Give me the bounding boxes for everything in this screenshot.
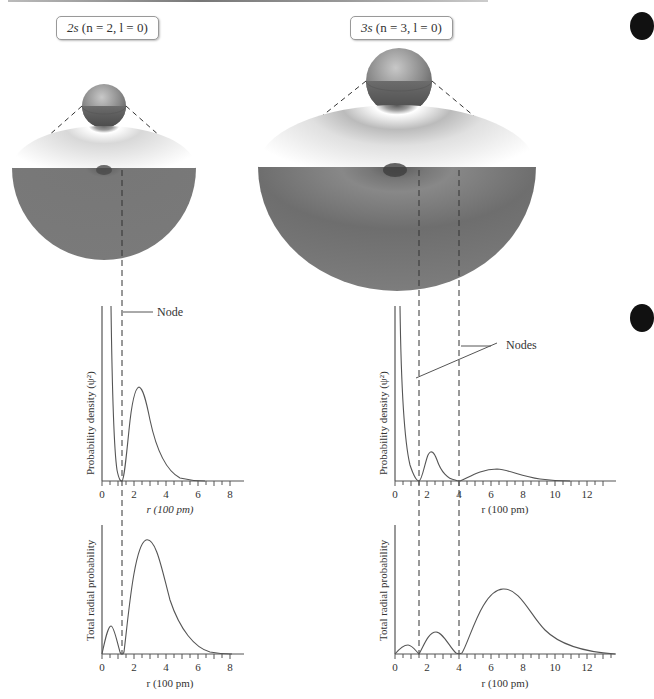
svg-text:6: 6 [195,488,201,500]
svg-text:4: 4 [163,661,169,673]
svg-text:2: 2 [131,661,137,673]
xlabel-2s-prob-density: r (100 pm) [146,503,193,516]
svg-text:4: 4 [456,661,462,673]
sphere-3s [366,48,432,114]
svg-text:12: 12 [582,488,593,500]
sphere-2s [82,84,126,128]
ylabel-3s-prob-density: Probability density (ψ²) [377,371,390,475]
svg-text:6: 6 [488,661,494,673]
orbital-diagram: Node Nodes Probability density (ψ²) Tota… [0,0,654,699]
ylabel-3s-radial: Total radial probability [377,539,389,641]
plot-3s-prob-density [395,306,616,486]
plot-2s-radial [102,525,244,659]
svg-text:6: 6 [488,488,494,500]
xlabel-2s-radial: r (100 pm) [146,677,193,690]
svg-text:0: 0 [99,661,105,673]
svg-text:4: 4 [163,488,169,500]
node-annotation-2s: Node [157,305,183,319]
svg-text:0: 0 [392,661,398,673]
svg-text:8: 8 [227,488,233,500]
ticks-3s-prob-density: 0 2 4 6 8 10 12 [392,488,592,500]
ticks-3s-radial: 0 2 4 6 8 10 12 [392,661,592,673]
svg-text:8: 8 [520,661,526,673]
svg-text:8: 8 [227,661,233,673]
xlabel-3s-radial: r (100 pm) [481,677,528,690]
ylabel-2s-prob-density: Probability density (ψ²) [84,371,97,475]
ticks-2s-radial: 0 2 4 6 8 [99,661,233,673]
cross-section-3s [258,105,536,291]
svg-text:4: 4 [456,488,462,500]
ticks-2s-prob-density: 0 2 4 6 8 [99,488,233,500]
svg-text:12: 12 [582,661,593,673]
svg-text:10: 10 [550,661,562,673]
plot-2s-prob-density [102,306,244,486]
ylabel-2s-radial: Total radial probability [84,539,96,641]
svg-text:2: 2 [424,661,430,673]
svg-text:0: 0 [99,488,105,500]
punch-hole-top [630,12,654,40]
svg-text:0: 0 [392,488,398,500]
svg-text:8: 8 [520,488,526,500]
svg-text:6: 6 [195,661,201,673]
xlabel-3s-prob-density: r (100 pm) [481,503,528,516]
svg-text:2: 2 [131,488,137,500]
nodes-annotation-3s: Nodes [506,338,537,352]
svg-text:10: 10 [550,488,562,500]
cross-section-2s [10,126,200,260]
svg-text:2: 2 [424,488,430,500]
plot-3s-radial [395,525,616,659]
punch-hole-middle [630,304,654,332]
